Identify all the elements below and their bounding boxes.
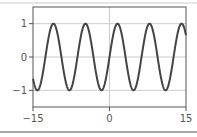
ticks: 10−1−15015 [12, 18, 192, 124]
y-tick-label: 1 [21, 18, 27, 29]
y-tick-label: −1 [12, 85, 27, 96]
y-tick-label: 0 [21, 52, 27, 63]
x-tick-label: 15 [180, 113, 193, 124]
x-tick-label: −15 [22, 113, 43, 124]
sine-chart: 10−1−15015 [0, 0, 197, 137]
x-tick-label: 0 [106, 113, 112, 124]
